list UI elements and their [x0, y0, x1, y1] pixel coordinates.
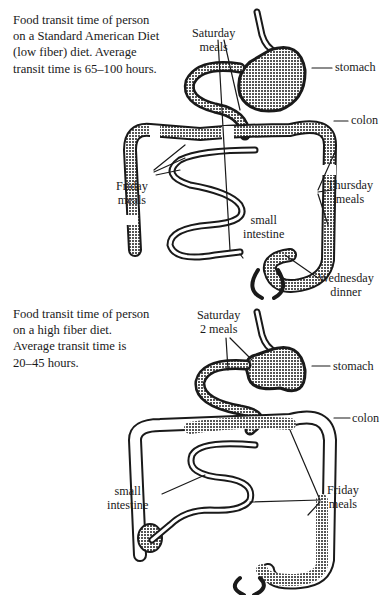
- bottom-stomach: [246, 348, 305, 391]
- bottom-label-colon: colon: [352, 411, 379, 425]
- bottom-label-small-intestine: small intestine: [107, 484, 148, 512]
- top-label-wednesday-dinner: Wednesday dinner: [318, 271, 374, 299]
- bottom-caption: Food transit time of person on a high fi…: [13, 306, 149, 371]
- bottom-digestive-tract: [135, 312, 350, 595]
- bottom-label-stomach: stomach: [333, 359, 374, 373]
- top-label-saturday-meals: Saturday meals: [192, 26, 235, 54]
- top-label-small-intestine: small intestine: [243, 213, 284, 241]
- top-label-colon: colon: [351, 113, 378, 127]
- top-label-stomach: stomach: [335, 60, 376, 74]
- top-label-friday-meals: Friday meals: [116, 179, 148, 207]
- bottom-label-saturday-2-meals: Saturday 2 meals: [197, 308, 240, 336]
- top-stomach: [239, 48, 305, 112]
- top-caption: Food transit time of person on a Standar…: [13, 12, 159, 77]
- top-label-thursday-meals: Thursday meals: [327, 178, 373, 206]
- bottom-label-friday-meals: Friday meals: [327, 483, 359, 511]
